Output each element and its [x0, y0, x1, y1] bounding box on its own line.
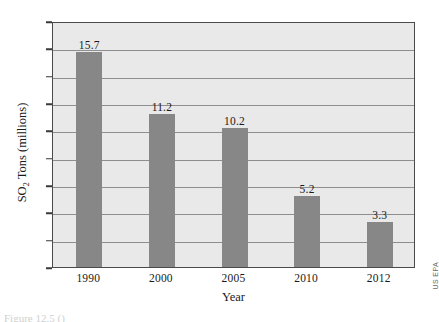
y-axis: 181614121086420 [0, 0, 52, 292]
x-axis: 19902000200520102012 [52, 272, 415, 290]
plot-area: 15.711.210.25.23.3 [52, 22, 415, 268]
bar[interactable] [149, 114, 175, 267]
x-axis-tick-label: 2005 [222, 272, 246, 284]
gridline [53, 78, 414, 79]
source-credit: US EPA [432, 262, 439, 290]
bar[interactable] [294, 196, 320, 267]
x-axis-tick-label: 2010 [294, 272, 318, 284]
gridline [53, 105, 414, 106]
bar[interactable] [222, 128, 248, 267]
x-axis-tick-label: 2000 [149, 272, 173, 284]
gridline [53, 50, 414, 51]
bar-value-label: 10.2 [224, 115, 245, 127]
caption-fragment: Figure 12.5 () [4, 312, 65, 322]
bar[interactable] [76, 52, 102, 267]
bar-value-label: 11.2 [152, 101, 173, 113]
x-axis-title: Year [52, 290, 415, 305]
bar[interactable] [367, 222, 393, 267]
x-axis-tick-label: 2012 [367, 272, 391, 284]
bar-value-label: 3.3 [372, 209, 387, 221]
bar-value-label: 15.7 [79, 39, 100, 51]
x-axis-tick-label: 1990 [76, 272, 100, 284]
bar-value-label: 5.2 [300, 183, 315, 195]
